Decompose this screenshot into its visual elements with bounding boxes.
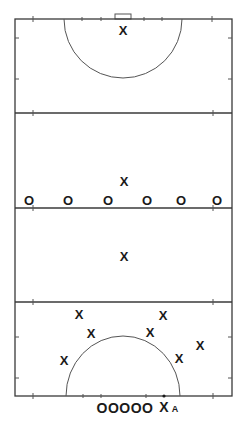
bottom-shooting-circle <box>66 336 180 396</box>
player-x-marker: X <box>75 307 84 322</box>
player-o-marker: O <box>142 193 152 208</box>
player-x-marker: X <box>60 353 69 368</box>
player-o-marker: O <box>176 193 186 208</box>
attacker-label-a: A <box>172 404 179 414</box>
penalty-spot-dot <box>162 394 165 397</box>
player-o-marker: O <box>103 193 113 208</box>
player-x-marker: X <box>146 325 155 340</box>
player-x-marker: X <box>120 174 129 189</box>
attacker-x-marker: X <box>159 399 169 415</box>
player-x-marker: X <box>175 351 184 366</box>
player-x-marker: X <box>159 308 168 323</box>
player-x-marker: X <box>87 326 96 341</box>
player-o-marker: O <box>212 193 222 208</box>
hockey-pitch-diagram: XXXOOOOOOXXXXXXXOOOOOXA <box>0 0 243 424</box>
goal-defenders-o-markers: OOOOO <box>97 400 154 416</box>
player-x-marker: X <box>119 23 128 38</box>
player-o-marker: O <box>63 193 73 208</box>
player-x-marker: X <box>120 249 129 264</box>
player-x-marker: X <box>196 338 205 353</box>
player-markers: XXXOOOOOOXXXXXXXOOOOOXA <box>24 23 222 417</box>
top-goal <box>115 14 131 19</box>
player-o-marker: O <box>24 193 34 208</box>
